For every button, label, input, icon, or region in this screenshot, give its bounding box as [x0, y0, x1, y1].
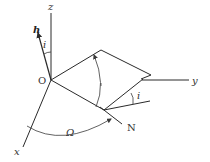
inclination-label-node: i [137, 90, 140, 101]
raan-label: Ω [65, 127, 74, 138]
plane-rotation-arc [94, 55, 101, 107]
inclination-arc-top [44, 52, 51, 54]
h-vector-label: h [33, 24, 40, 35]
equatorial-reference-line [104, 101, 150, 110]
y-axis-label: y [191, 75, 198, 86]
inclination-arc-node [131, 93, 133, 104]
origin-label: O [38, 75, 46, 86]
z-axis-label: z [47, 1, 54, 12]
x-axis-label: x [14, 146, 20, 157]
inclination-label-top: i [43, 39, 46, 50]
orbital-elements-diagram: z h i O x y i N Ω [0, 0, 210, 162]
orbit-plane-edges [51, 50, 151, 80]
node-label: N [127, 122, 136, 133]
x-axis [23, 80, 51, 147]
node-line [100, 107, 122, 124]
orbit-plane-lower-edge [51, 80, 104, 110]
